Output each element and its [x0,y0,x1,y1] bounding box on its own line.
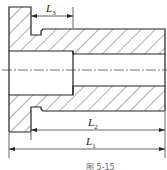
dimension-label-l2: L2 [88,116,98,131]
dimension-label-l1: L1 [86,135,96,150]
dimension-label-l3: L3 [46,2,56,17]
lower-section [9,86,165,132]
upper-section [9,7,165,54]
figure-caption: 图 5-15 [86,161,115,170]
drawing-canvas: L3 L2 L1 图 5-15 [0,0,167,170]
sectioned-bushing-drawing [0,0,167,170]
